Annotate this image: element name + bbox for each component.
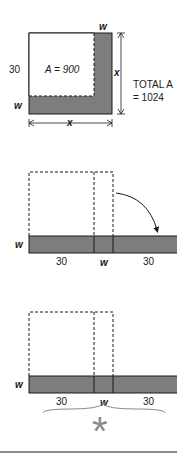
label-total: TOTAL A [133, 79, 173, 90]
dashed-square [29, 172, 113, 236]
label-w-left-2: w [15, 239, 24, 250]
diagram-canvas: w 30 A = 900 w x x TOTAL A = 1024 w 30 w… [0, 0, 177, 455]
label-30-left-3: 30 [56, 396, 68, 407]
label-w-left: w [14, 100, 23, 111]
label-total-value: = 1024 [133, 92, 164, 103]
figure-1-square: w 30 A = 900 w x x TOTAL A = 1024 [9, 21, 173, 128]
label-w-top: w [99, 21, 108, 32]
label-30-right-3: 30 [143, 396, 155, 407]
label-x-bottom: x [66, 117, 73, 128]
label-w-left-3: w [15, 379, 24, 390]
label-30: 30 [9, 64, 21, 75]
asterisk-mark: * [92, 409, 108, 453]
label-30-left-2: 30 [56, 256, 68, 267]
figure-3-strip: w 30 w 30 * [15, 312, 177, 453]
shaded-strip [29, 236, 177, 253]
dashed-square-3 [29, 312, 113, 376]
label-w-mid-2: w [100, 257, 109, 268]
figure-2-unfold: w 30 w 30 [15, 172, 177, 268]
label-x-right: x [113, 67, 120, 78]
label-30-right-2: 30 [143, 256, 155, 267]
label-area: A = 900 [44, 64, 80, 75]
rotation-arrow [116, 193, 157, 230]
shaded-strip-3 [29, 376, 177, 393]
